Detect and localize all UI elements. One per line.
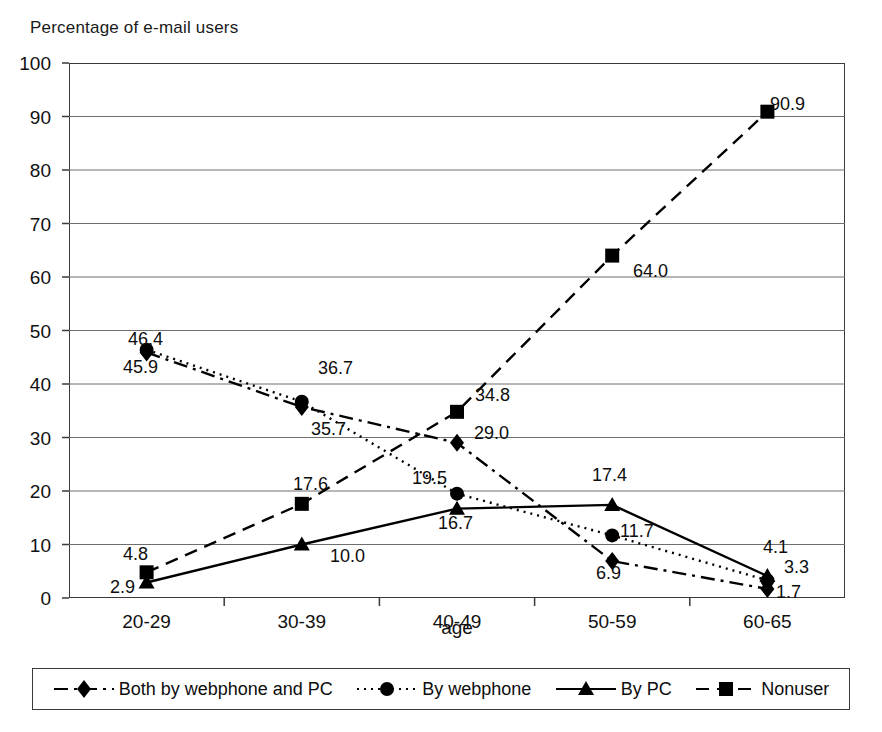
circle-marker (356, 680, 418, 698)
data-value-label: 29.0 (474, 424, 509, 442)
legend-item-label: Both by webphone and PC (119, 680, 333, 698)
data-value-label: 1.7 (776, 583, 801, 601)
page-title: Percentage of e-mail users (30, 18, 238, 38)
y-tick-label: 100 (0, 54, 51, 73)
data-value-label: 90.9 (770, 95, 805, 113)
x-tick-label: 30-39 (242, 612, 362, 631)
data-value-label: 64.0 (633, 262, 668, 280)
y-tick-label: 70 (0, 215, 51, 234)
data-value-label: 36.7 (318, 359, 353, 377)
legend-item[interactable]: By PC (555, 680, 672, 698)
data-value-label: 11.7 (620, 522, 654, 540)
y-tick-label: 90 (0, 108, 51, 127)
legend-item-label: By PC (621, 680, 672, 698)
data-value-label: 2.9 (110, 578, 135, 596)
x-tick-label: 60-65 (707, 612, 827, 631)
data-value-label: 16.7 (438, 514, 473, 532)
x-tick-label: 50-59 (552, 612, 672, 631)
data-value-label: 10.0 (330, 547, 365, 565)
y-tick-label: 50 (0, 322, 51, 341)
data-value-label: 17.6 (293, 475, 328, 493)
square-marker (695, 680, 757, 698)
y-tick-label: 0 (0, 589, 51, 608)
data-value-label: 35.7 (311, 420, 346, 438)
data-value-label: 17.4 (592, 466, 627, 484)
legend-item-label: By webphone (422, 680, 531, 698)
legend-item[interactable]: Both by webphone and PC (53, 680, 333, 698)
y-tick-label: 80 (0, 161, 51, 180)
legend-item-label: Nonuser (761, 680, 829, 698)
y-tick-label: 60 (0, 268, 51, 287)
data-value-label: 3.3 (784, 558, 809, 576)
y-tick-label: 30 (0, 429, 51, 448)
data-value-label: 19.5 (412, 469, 447, 487)
triangle-marker (555, 680, 617, 698)
x-axis-label: age (397, 617, 517, 639)
data-value-label: 34.8 (475, 386, 510, 404)
data-value-label: 4.8 (123, 545, 148, 563)
data-value-label: 46.4 (128, 330, 163, 348)
legend-item[interactable]: Nonuser (695, 680, 829, 698)
legend-item[interactable]: By webphone (356, 680, 531, 698)
y-tick-label: 20 (0, 482, 51, 501)
data-value-label: 6.9 (596, 564, 621, 582)
data-value-label: 4.1 (763, 538, 788, 556)
data-value-label: 45.9 (123, 358, 158, 376)
y-tick-label: 40 (0, 375, 51, 394)
x-tick-marks (224, 598, 690, 606)
y-tick-label: 10 (0, 536, 51, 555)
chart-legend: Both by webphone and PCBy webphoneBy PCN… (32, 668, 850, 710)
x-tick-label: 20-29 (87, 612, 207, 631)
diamond-marker (53, 680, 115, 698)
